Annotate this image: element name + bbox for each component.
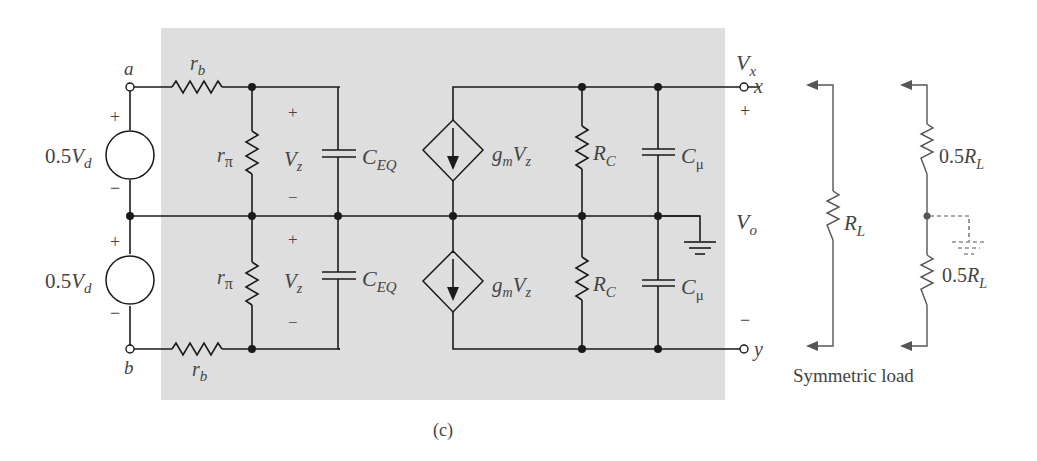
svg-text:−: − [288,313,298,332]
svg-text:+: + [288,103,298,122]
shaded-panel [161,28,725,400]
output-minus-label: − [740,310,750,330]
differential-amplifier-small-signal-circuit: a b + − 0.5Vd + − 0.5Vd rb rb rπ rπ + Vz… [0,0,1037,461]
svg-text:−: − [110,303,120,323]
load-rl: RL [806,80,865,351]
terminal-b: b [124,345,134,378]
svg-text:y: y [752,338,763,361]
svg-text:+: + [110,232,120,252]
vo-label: Vo [736,209,757,238]
vx-label: Vx [736,50,756,79]
output-plus-label: + [740,101,750,121]
svg-text:+: + [110,107,120,127]
voltage-source-top: + − 0.5Vd [45,107,154,198]
load-symmetric: 0.5RL 0.5RL [900,80,987,351]
svg-text:−: − [288,188,298,207]
svg-text:a: a [124,58,134,79]
svg-text:0.5RL: 0.5RL [939,145,984,172]
svg-text:−: − [110,178,120,198]
svg-text:0.5Vd: 0.5Vd [45,269,92,296]
symmetric-load-label: Symmetric load [793,365,914,386]
figure-caption: (c) [433,420,453,441]
terminal-y: y [740,338,763,361]
svg-text:b: b [124,357,134,378]
svg-text:0.5Vd: 0.5Vd [45,144,92,171]
terminal-a: a [124,58,134,91]
svg-text:RL: RL [843,211,865,239]
voltage-source-bottom: + − 0.5Vd [45,232,154,323]
svg-text:+: + [288,230,298,249]
svg-text:0.5RL: 0.5RL [942,264,987,291]
